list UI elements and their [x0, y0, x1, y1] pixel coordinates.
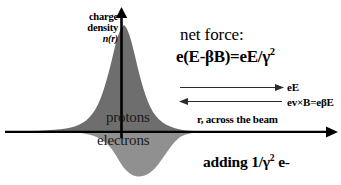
- magnetic-force-label: ev×B=eβE: [287, 97, 334, 109]
- y-axis-label-line1: charge: [89, 11, 118, 22]
- y-axis-label-line3: n(r): [52, 34, 118, 45]
- y-axis-label-line2: density: [87, 22, 118, 33]
- net-force-equation: e(E-βB)=eE/γ2: [176, 48, 275, 66]
- electric-force-label: eE: [287, 82, 299, 94]
- charge-density-figure: charge density n(r) net force: e(E-βB)=e…: [0, 0, 341, 185]
- electrons-label: electrons: [97, 133, 149, 149]
- protons-label: protons: [106, 110, 150, 126]
- x-axis-arrowhead: [326, 126, 338, 137]
- adding-note: adding 1/γ2 e-: [203, 154, 290, 170]
- net-force-equation-body: e(E-βB)=eE/γ: [176, 47, 270, 66]
- adding-note-suffix: e-: [278, 153, 290, 170]
- force-arrow-left-head: [179, 98, 188, 105]
- net-force-heading: net force:: [180, 26, 244, 44]
- y-axis-label: charge density n(r): [52, 11, 118, 45]
- net-force-equation-exponent: 2: [270, 46, 275, 57]
- adding-note-prefix: adding 1/γ: [203, 153, 270, 170]
- adding-note-exponent: 2: [270, 152, 275, 163]
- force-arrow-right-head: [275, 84, 284, 91]
- x-axis-label: r, across the beam: [197, 114, 278, 126]
